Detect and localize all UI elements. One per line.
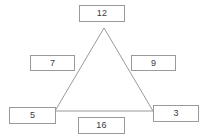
value-box-bottom: 16 — [78, 117, 125, 134]
value-box-bottom-left: 5 — [9, 107, 56, 124]
value-label-right: 9 — [151, 58, 156, 67]
value-label-left: 7 — [50, 58, 55, 67]
diagram-canvas: 12 7 9 5 3 16 — [0, 0, 206, 138]
value-label-bottom-left: 5 — [30, 111, 35, 120]
value-box-right: 9 — [131, 55, 176, 71]
value-label-bottom-right: 3 — [173, 109, 178, 118]
value-label-top: 12 — [97, 9, 107, 18]
value-label-bottom: 16 — [96, 121, 106, 130]
value-box-bottom-right: 3 — [153, 105, 199, 122]
value-box-left: 7 — [30, 55, 75, 71]
value-box-top: 12 — [79, 5, 125, 22]
